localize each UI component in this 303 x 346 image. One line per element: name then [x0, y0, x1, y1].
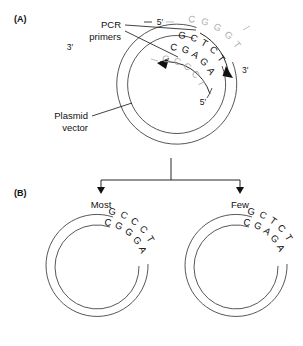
plasmid-vector-callout: Plasmid vector	[54, 103, 132, 133]
panel-a-label: (A)	[14, 14, 27, 24]
template-tick-left	[151, 59, 158, 61]
plasmid-most: G C C C T C G G G A	[46, 205, 157, 316]
plasmid-few-top-strand-sequence: G C T C T	[247, 205, 296, 243]
pcr-primers-label-line2: primers	[89, 31, 121, 42]
plasmid-vector-label-line1: Plasmid	[54, 110, 88, 121]
plasmid-few-inner-circle	[194, 225, 278, 309]
plasmid-most-top-strand-sequence: G C C C T	[108, 205, 157, 244]
five-prime-top-label: 5′	[157, 17, 164, 27]
branch-left-arrowhead	[97, 187, 105, 194]
plasmid-most-inner-circle	[55, 225, 139, 309]
three-prime-right-label: 3′	[242, 65, 249, 75]
pcr-primers-label-line1: PCR	[101, 19, 121, 30]
template-bottom-strand-sequence: G C C C T	[162, 53, 208, 89]
figure-canvas: (A) 5′ 3′ 3′ 5′	[0, 0, 303, 346]
template-tick-top-right	[243, 26, 250, 30]
figure-root: (A) 5′ 3′ 3′ 5′	[0, 0, 303, 346]
branch-right-arrowhead	[236, 187, 244, 194]
plasmid-few: G C T C T C G A G A	[185, 205, 295, 316]
plasmid-vector-label-line2: vector	[62, 122, 88, 133]
branch-connector	[97, 158, 244, 194]
branch-most-label: Most	[91, 199, 112, 210]
panel-b-label: (B)	[14, 188, 27, 198]
five-prime-inner-label: 5′	[200, 97, 207, 107]
branch-few-label: Few	[231, 199, 249, 210]
three-prime-left-label: 3′	[67, 42, 74, 52]
five-prime-inner-tick	[207, 88, 212, 98]
pcr-primers-leader-lower	[125, 31, 178, 57]
plasmid-vector-leader	[92, 103, 132, 116]
